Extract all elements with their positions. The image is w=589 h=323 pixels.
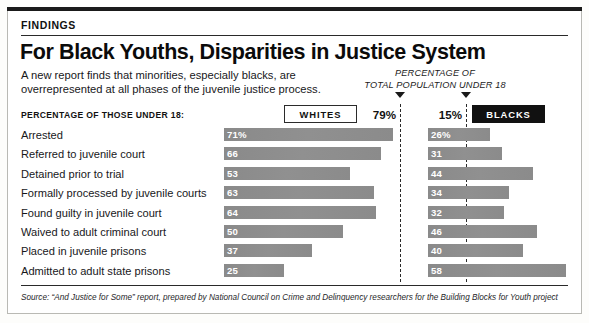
chart-row: Arrested71%26% [0,126,589,145]
whites-bar-fill [224,128,393,141]
whites-bar-fill [224,167,350,180]
whites-bar-value: 25 [227,264,238,277]
blacks-population-pct: 15% [424,108,462,121]
whites-bar-value: 66 [227,147,238,160]
chart-row-label: Admitted to adult state prisons [21,264,170,278]
blacks-bar-value: 31 [431,147,442,160]
chart-row: Placed in juvenile prisons3740 [0,242,589,261]
chart-row: Detained prior to trial5344 [0,165,589,184]
chart-row-label: Placed in juvenile prisons [21,244,146,258]
whites-population-pct: 79% [358,108,396,121]
population-annotation-line1: PERCENTAGE OF [335,68,535,80]
chart-row-label: Detained prior to trial [21,167,124,181]
blacks-bar-value: 58 [431,264,442,277]
blacks-bar-fill [428,225,537,238]
blacks-bar-fill [428,244,523,257]
whites-bar-fill [224,147,381,160]
source-note: Source: “And Justice for Some” report, p… [21,292,577,303]
chart-row-label: Referred to juvenile court [21,147,145,161]
chart-row: Formally processed by juvenile courts633… [0,184,589,203]
blacks-bar-value: 44 [431,167,442,180]
kicker-divider [21,35,568,36]
subtitle-deck: A new report finds that minorities, espe… [21,68,336,97]
whites-bar-value: 37 [227,244,238,257]
chart-row-label: Arrested [21,128,63,142]
blacks-bar-value: 34 [431,186,442,199]
chart-row-label: Formally processed by juvenile courts [21,186,207,200]
chart-rows: Arrested71%26%Referred to juvenile court… [0,126,589,281]
whites-bar-value: 71% [227,128,247,141]
column-header-label: PERCENTAGE OF THOSE UNDER 18: [21,110,184,120]
source-divider [21,285,568,286]
chart-row: Admitted to adult state prisons2558 [0,262,589,281]
whites-bar-fill [224,225,343,238]
chart-row: Referred to juvenile court6631 [0,145,589,164]
chart-row: Waived to adult criminal court5046 [0,223,589,242]
chart-row-label: Found guilty in juvenile court [21,206,162,220]
population-annotation-line2: TOTAL POPULATION UNDER 18 [335,80,535,92]
chart-row: Found guilty in juvenile court6432 [0,204,589,223]
chart-row-label: Waived to adult criminal court [21,225,166,239]
caret-down-icon-blacks [461,92,471,98]
blacks-bar-fill [428,167,533,180]
population-annotation: PERCENTAGE OF TOTAL POPULATION UNDER 18 [335,68,535,91]
kicker-label: FINDINGS [21,19,76,31]
whites-bar-value: 50 [227,225,238,238]
blacks-bar-value: 40 [431,244,442,257]
whites-bar-value: 63 [227,186,238,199]
infographic-page: FINDINGS For Black Youths, Disparities i… [0,0,589,323]
whites-bar-value: 53 [227,167,238,180]
blacks-bar-value: 32 [431,206,442,219]
caret-down-icon-whites [395,92,405,98]
blacks-bar-fill [428,264,566,277]
whites-bar-value: 64 [227,206,238,219]
blacks-bar-value: 26% [431,128,451,141]
whites-bar-fill [224,186,374,199]
blacks-bar-value: 46 [431,225,442,238]
legend-blacks: BLACKS [472,105,545,123]
whites-bar-fill [224,206,376,219]
page-title: For Black Youths, Disparities in Justice… [20,40,570,64]
legend-whites: WHITES [284,105,357,123]
